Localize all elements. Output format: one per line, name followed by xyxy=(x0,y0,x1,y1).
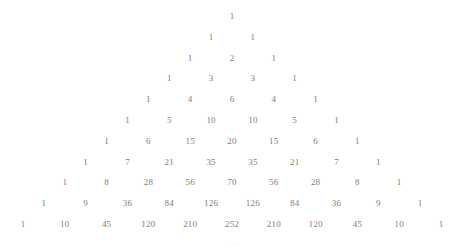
triangle-cell: 3 xyxy=(209,74,214,83)
triangle-cell: 1 xyxy=(83,157,88,166)
triangle-cell: 10 xyxy=(60,220,69,229)
triangle-cell: 9 xyxy=(376,199,381,208)
triangle-cell: 1 xyxy=(397,178,402,187)
triangle-cell: 35 xyxy=(248,157,257,166)
triangle-cell: 1 xyxy=(42,199,47,208)
triangle-cell: 36 xyxy=(123,199,132,208)
triangle-cell: 1 xyxy=(209,32,214,41)
triangle-cell: 210 xyxy=(183,220,197,229)
triangle-cell: 36 xyxy=(332,199,341,208)
triangle-cell: 6 xyxy=(146,136,151,145)
triangle-cell: 7 xyxy=(125,157,130,166)
triangle-cell: 10 xyxy=(206,116,215,125)
triangle-cell: 2 xyxy=(230,53,235,62)
triangle-cell: 1 xyxy=(62,178,67,187)
triangle-cell: 7 xyxy=(334,157,339,166)
triangle-cell: 1 xyxy=(439,220,444,229)
triangle-cell: 10 xyxy=(394,220,403,229)
triangle-cell: 1 xyxy=(21,220,26,229)
triangle-cell: 5 xyxy=(292,116,297,125)
triangle-cell: 8 xyxy=(104,178,109,187)
triangle-cell: 126 xyxy=(246,199,260,208)
triangle-cell: 6 xyxy=(230,95,235,104)
triangle-cell: 126 xyxy=(204,199,218,208)
triangle-cell: 56 xyxy=(269,178,278,187)
triangle-cell: 1 xyxy=(188,53,193,62)
triangle-cell: 1 xyxy=(125,116,130,125)
triangle-cell: 70 xyxy=(227,178,236,187)
triangle-cell: 120 xyxy=(141,220,155,229)
triangle-cell: 1 xyxy=(292,74,297,83)
triangle-cell: 28 xyxy=(311,178,320,187)
triangle-cell: 210 xyxy=(267,220,281,229)
triangle-cell: 15 xyxy=(269,136,278,145)
triangle-cell: 45 xyxy=(102,220,111,229)
triangle-cell: 1 xyxy=(251,32,256,41)
triangle-cell: 4 xyxy=(271,95,276,104)
triangle-cell: 21 xyxy=(165,157,174,166)
triangle-cell: 21 xyxy=(290,157,299,166)
triangle-cell: 1 xyxy=(355,136,360,145)
pascals-triangle-figure: 1111211331146411510105116152015611721353… xyxy=(0,0,470,251)
triangle-cell: 1 xyxy=(418,199,423,208)
triangle-cell: 1 xyxy=(167,74,172,83)
triangle-cell: 9 xyxy=(83,199,88,208)
triangle-cell: 1 xyxy=(271,53,276,62)
triangle-cell: 84 xyxy=(165,199,174,208)
continuation-ellipsis: ··· xyxy=(228,240,241,249)
triangle-cell: 1 xyxy=(313,95,318,104)
triangle-cell: 6 xyxy=(313,136,318,145)
triangle-cell: 28 xyxy=(144,178,153,187)
triangle-cell: 5 xyxy=(167,116,172,125)
triangle-cell: 120 xyxy=(309,220,323,229)
triangle-cell: 3 xyxy=(251,74,256,83)
triangle-cell: 56 xyxy=(185,178,194,187)
triangle-cell: 35 xyxy=(206,157,215,166)
triangle-body: 1111211331146411510105116152015611721353… xyxy=(0,0,470,251)
triangle-cell: 15 xyxy=(185,136,194,145)
triangle-cell: 1 xyxy=(334,116,339,125)
triangle-cell: 1 xyxy=(376,157,381,166)
triangle-cell: 1 xyxy=(104,136,109,145)
triangle-cell: 20 xyxy=(227,136,236,145)
triangle-cell: 4 xyxy=(188,95,193,104)
triangle-cell: 84 xyxy=(290,199,299,208)
triangle-cell: 252 xyxy=(225,220,239,229)
triangle-cell: 1 xyxy=(230,12,235,21)
triangle-cell: 1 xyxy=(146,95,151,104)
triangle-cell: 45 xyxy=(353,220,362,229)
triangle-cell: 8 xyxy=(355,178,360,187)
triangle-cell: 10 xyxy=(248,116,257,125)
